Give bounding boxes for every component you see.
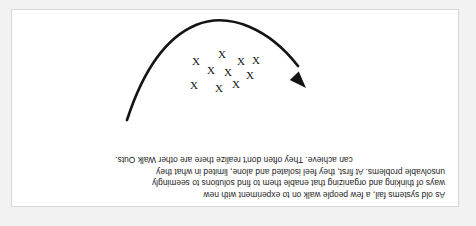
x-mark: X xyxy=(192,56,200,67)
x-mark: X xyxy=(215,83,223,94)
x-mark: X xyxy=(224,67,232,78)
x-marks-cluster: XXXXXXXXXX xyxy=(12,10,458,206)
rotated-content-group: As old systems fail, a few people walk o… xyxy=(12,10,458,206)
x-mark: X xyxy=(237,56,245,67)
figure-canvas: As old systems fail, a few people walk o… xyxy=(0,0,476,226)
x-mark: X xyxy=(190,80,198,91)
x-mark: X xyxy=(246,70,254,81)
x-mark: X xyxy=(218,49,226,60)
slide-frame: As old systems fail, a few people walk o… xyxy=(11,9,459,207)
x-mark: X xyxy=(252,55,260,66)
x-mark: X xyxy=(232,79,240,90)
x-mark: X xyxy=(207,65,215,76)
